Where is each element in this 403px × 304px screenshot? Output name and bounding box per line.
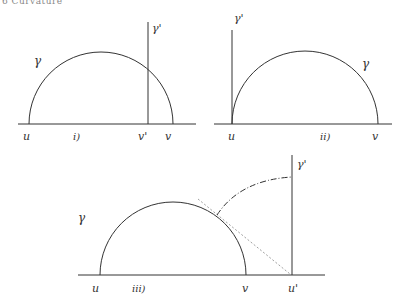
label-v-iii: v: [242, 282, 249, 295]
label-gamma-i: γ: [34, 54, 42, 68]
label-gamma-ii: γ: [362, 57, 370, 71]
label-gamma-prime-ii: γ': [234, 12, 244, 25]
panel-ii: γ' γ u ii) v: [214, 12, 392, 143]
caption-ii: ii): [320, 131, 330, 142]
panel-iii: γ γ' u iii) v u': [78, 155, 325, 295]
label-u-prime-iii: u': [288, 282, 298, 295]
dash-dot-arc-iii: [217, 177, 292, 215]
label-gamma-prime-iii: γ': [297, 158, 307, 171]
panel-i: γ γ' u i) v' v: [18, 22, 196, 143]
label-v-prime-i: v': [138, 130, 147, 143]
label-v-i: v: [165, 130, 172, 143]
curvature-diagram: γ γ' u i) v' v γ' γ u ii) v γ γ' u iii) …: [0, 0, 403, 304]
semicircle-gamma-iii: [100, 202, 246, 275]
caption-i: i): [73, 131, 80, 142]
label-u-ii: u: [228, 130, 235, 143]
label-gamma-prime-i: γ': [152, 22, 162, 35]
label-u-iii: u: [92, 282, 99, 295]
dotted-line-iii: [198, 199, 290, 274]
label-v-ii: v: [372, 130, 379, 143]
label-gamma-iii: γ: [78, 211, 86, 225]
label-u-i: u: [23, 130, 30, 143]
caption-iii: iii): [132, 283, 146, 294]
semicircle-gamma-ii: [232, 51, 378, 124]
semicircle-gamma-i: [29, 52, 173, 124]
